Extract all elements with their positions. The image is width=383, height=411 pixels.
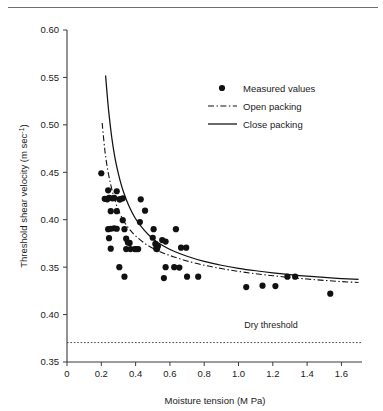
dry-threshold-label: Dry threshold — [244, 320, 298, 330]
data-point — [176, 265, 182, 271]
data-point — [108, 246, 114, 252]
data-point — [116, 264, 122, 270]
close-packing-curve — [106, 76, 359, 280]
data-point — [127, 240, 133, 246]
data-point — [135, 246, 141, 252]
y-tick-label: 0.45 — [41, 167, 60, 178]
x-tick-label: 0.2 — [95, 368, 108, 379]
y-tick-label: 0.50 — [41, 119, 60, 130]
legend-marker-measured-values — [219, 85, 225, 91]
data-point — [137, 219, 143, 225]
data-point — [114, 208, 120, 214]
data-point — [142, 208, 148, 214]
x-tick-label: 1.2 — [266, 368, 279, 379]
data-point — [116, 196, 122, 202]
y-tick-label: 0.35 — [41, 262, 60, 273]
x-tick-label: 1.0 — [232, 368, 245, 379]
data-point — [138, 196, 144, 202]
x-axis-title: Moisture tension (M Pa) — [165, 395, 266, 406]
data-point — [114, 226, 120, 232]
data-point — [120, 217, 126, 223]
data-point — [121, 226, 127, 232]
legend-label-open-packing: Open packing — [243, 101, 302, 112]
x-tick-label: 0 — [64, 368, 69, 379]
x-axis-ticks: 00.20.40.60.81.01.21.41.6 — [64, 362, 348, 379]
scatter-plot: 0.600.550.500.450.400.350.400.35 00.20.4… — [0, 0, 383, 411]
data-point — [163, 264, 169, 270]
data-point — [151, 226, 157, 232]
data-point — [98, 170, 104, 176]
data-point — [123, 246, 129, 252]
data-point — [284, 274, 290, 280]
data-point — [184, 274, 190, 280]
y-axis-title: Threshold shear velocity (m sec-1) — [18, 124, 30, 268]
y-tick-label: 0.35 — [41, 356, 60, 367]
data-point — [173, 226, 179, 232]
data-point — [243, 284, 249, 290]
data-point — [106, 235, 112, 241]
y-tick-label: 0.40 — [41, 214, 60, 225]
y-tick-label: 0.60 — [41, 24, 60, 35]
y-axis-ticks: 0.600.550.500.450.400.350.400.35 — [41, 24, 68, 367]
data-point — [163, 238, 169, 244]
data-point — [121, 274, 127, 280]
x-tick-label: 0.8 — [198, 368, 211, 379]
y-tick-label: 0.55 — [41, 72, 60, 83]
figure-container: 0.600.550.500.450.400.350.400.35 00.20.4… — [0, 0, 383, 411]
data-point — [272, 283, 278, 289]
x-tick-label: 0.4 — [129, 368, 142, 379]
x-tick-label: 1.4 — [301, 368, 314, 379]
legend: Measured values Open packing Close packi… — [208, 83, 316, 130]
data-point — [161, 275, 167, 281]
data-point — [108, 208, 114, 214]
open-packing-curve — [102, 123, 358, 283]
x-tick-label: 0.6 — [163, 368, 176, 379]
legend-label-close-packing: Close packing — [243, 119, 303, 130]
data-point — [292, 274, 298, 280]
data-point — [183, 245, 189, 251]
y-tick-label: 0.40 — [41, 309, 60, 320]
top-divider-rule — [8, 7, 378, 8]
data-point — [195, 274, 201, 280]
data-point — [259, 283, 265, 289]
data-point — [114, 188, 120, 194]
legend-label-measured-values: Measured values — [243, 83, 316, 94]
x-tick-label: 1.6 — [335, 368, 348, 379]
data-point — [327, 291, 333, 297]
data-point — [105, 187, 111, 193]
data-point — [155, 243, 161, 249]
data-point — [150, 235, 156, 241]
